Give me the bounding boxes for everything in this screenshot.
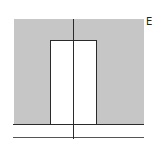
energy-axis-label: E (146, 17, 152, 27)
reference-line (13, 137, 144, 138)
baseline (13, 124, 144, 125)
vertical-axis (73, 19, 74, 139)
